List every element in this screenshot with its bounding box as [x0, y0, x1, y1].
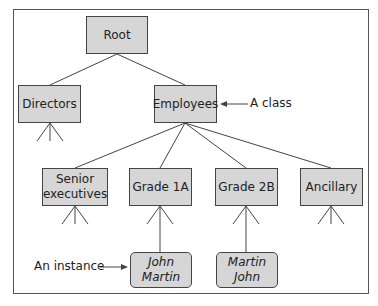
class-annotation: A class [250, 96, 292, 110]
node-root: Root [86, 16, 148, 54]
instance-label: Martin John [223, 255, 271, 285]
instance-john-martin: John Martin [130, 252, 192, 288]
node-label: Ancillary [306, 180, 358, 195]
node-employees: Employees [154, 85, 217, 123]
node-label: Root [103, 28, 130, 43]
node-ancillary: Ancillary [300, 168, 363, 206]
node-grade-1a: Grade 1A [129, 168, 192, 206]
node-label: Directors [22, 97, 76, 112]
instance-label: John Martin [139, 255, 183, 285]
instance-martin-john: Martin John [216, 252, 278, 288]
node-label: Employees [153, 97, 219, 112]
node-senior-executives: Senior executives [42, 168, 108, 206]
instance-annotation: An instance [34, 259, 104, 273]
node-label: Grade 1A [132, 180, 188, 195]
node-grade-2b: Grade 2B [215, 168, 278, 206]
node-label: Senior executives [43, 172, 107, 202]
node-label: Grade 2B [218, 180, 274, 195]
node-directors: Directors [18, 85, 81, 123]
